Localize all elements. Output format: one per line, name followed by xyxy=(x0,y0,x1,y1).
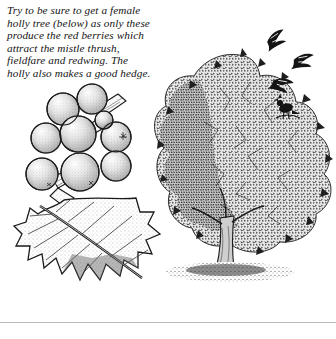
holly-leaf xyxy=(14,198,160,280)
flying-bird xyxy=(291,50,315,75)
holly-tree-illustration xyxy=(150,18,336,323)
illustration-page: Try to be sure to get a female holly tre… xyxy=(0,0,336,339)
flying-bird xyxy=(266,29,288,52)
tree-canopy xyxy=(155,48,334,255)
caption-line: Try to be sure to get a female xyxy=(7,4,179,17)
bottom-divider xyxy=(0,322,336,323)
